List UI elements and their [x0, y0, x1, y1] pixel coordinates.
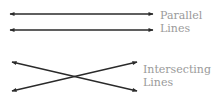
- parallel-label-line2: Lines: [160, 22, 202, 35]
- intersecting-label-line2: Lines: [143, 76, 211, 89]
- intersecting-label-line1: Intersecting: [143, 63, 211, 76]
- intersecting-label: Intersecting Lines: [143, 63, 211, 89]
- parallel-label: Parallel Lines: [160, 9, 202, 35]
- parallel-label-line1: Parallel: [160, 9, 202, 22]
- lines-diagram: Parallel Lines Intersecting Lines: [0, 0, 213, 97]
